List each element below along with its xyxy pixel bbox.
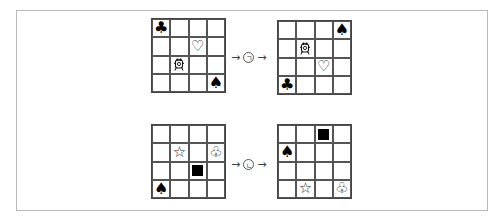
grid-cell — [170, 19, 188, 37]
heart-outline-icon: ♡ — [317, 59, 330, 74]
grid-cell — [189, 19, 207, 37]
grid-cell: ♡ — [315, 58, 333, 76]
grid-cell — [170, 162, 188, 180]
grid-before-2: ☆♧♠ — [151, 124, 226, 199]
grid-cell — [170, 56, 188, 74]
grid-cell: ♠ — [278, 143, 296, 161]
grid-cell — [152, 56, 170, 74]
grid-cell: ♣ — [278, 76, 296, 94]
grid-cell — [296, 21, 314, 39]
arrow-right-icon: → — [257, 158, 266, 171]
club-outline-icon: ♧ — [335, 181, 348, 196]
grid-cell — [296, 76, 314, 94]
grid-cell — [189, 56, 207, 74]
figure-icon — [299, 42, 311, 55]
arrow-right-icon: → — [231, 158, 240, 171]
grid-cell — [152, 143, 170, 161]
spade-filled-icon: ♠ — [154, 181, 168, 197]
transform-label-b: ㄴ — [243, 159, 254, 170]
grid-cell: ♠ — [207, 74, 225, 92]
arrow-right-icon: → — [257, 51, 266, 64]
grid-cell — [207, 125, 225, 143]
grid-cell — [278, 58, 296, 76]
grid-cell — [207, 56, 225, 74]
grid-cell — [278, 180, 296, 198]
grid-cell — [170, 125, 188, 143]
grid-cell — [333, 162, 351, 180]
square-filled-icon — [318, 129, 329, 140]
club-filled-icon: ♣ — [280, 77, 294, 93]
arrow-right-icon: → — [231, 51, 240, 64]
grid-after-1: ♠♡♣ — [277, 20, 352, 95]
grid-cell — [170, 37, 188, 55]
grid-cell — [278, 162, 296, 180]
grid-cell — [333, 143, 351, 161]
grid-cell — [152, 74, 170, 92]
grid-cell — [278, 39, 296, 57]
grid-cell — [315, 39, 333, 57]
grid-cell — [296, 162, 314, 180]
grid-cell — [278, 125, 296, 143]
grid-cell: ☆ — [170, 143, 188, 161]
grid-cell: ♣ — [152, 19, 170, 37]
grid-cell — [333, 58, 351, 76]
grid-cell — [170, 180, 188, 198]
star-outline-icon: ☆ — [173, 145, 186, 160]
grid-cell — [315, 21, 333, 39]
grid-cell: ♠ — [333, 21, 351, 39]
grid-cell — [189, 162, 207, 180]
grid-cell — [189, 125, 207, 143]
grid-cell — [296, 58, 314, 76]
heart-outline-icon: ♡ — [191, 39, 204, 54]
grid-cell: ♧ — [207, 143, 225, 161]
transform-b: → ㄴ → — [231, 158, 266, 171]
club-filled-icon: ♣ — [154, 20, 168, 36]
grid-cell — [333, 76, 351, 94]
grid-cell — [207, 162, 225, 180]
square-filled-icon — [192, 165, 203, 176]
grid-cell — [189, 180, 207, 198]
spade-filled-icon: ♠ — [209, 75, 223, 91]
grid-cell — [296, 143, 314, 161]
grid-cell — [152, 37, 170, 55]
grid-cell — [189, 74, 207, 92]
grid-cell — [207, 180, 225, 198]
grid-cell — [170, 74, 188, 92]
spade-filled-icon: ♠ — [280, 144, 294, 160]
grid-before-1: ♣♡♠ — [151, 18, 226, 93]
figure-icon — [173, 58, 185, 71]
grid-cell — [315, 180, 333, 198]
grid-cell — [207, 37, 225, 55]
diagram-frame — [16, 10, 488, 211]
transform-a: → ㄱ → — [231, 51, 266, 64]
grid-cell — [278, 21, 296, 39]
grid-cell — [189, 143, 207, 161]
grid-cell — [296, 39, 314, 57]
club-outline-icon: ♧ — [209, 145, 222, 160]
grid-cell — [333, 125, 351, 143]
grid-cell: ♠ — [152, 180, 170, 198]
grid-cell — [315, 125, 333, 143]
transform-label-a: ㄱ — [243, 52, 254, 63]
grid-cell — [152, 162, 170, 180]
grid-cell — [207, 19, 225, 37]
grid-cell — [152, 125, 170, 143]
grid-cell — [315, 76, 333, 94]
grid-cell: ☆ — [296, 180, 314, 198]
grid-cell — [315, 162, 333, 180]
grid-after-2: ♠☆♧ — [277, 124, 352, 199]
grid-cell — [296, 125, 314, 143]
grid-cell — [333, 39, 351, 57]
spade-filled-icon: ♠ — [335, 22, 349, 38]
star-outline-icon: ☆ — [299, 181, 312, 196]
grid-cell: ♡ — [189, 37, 207, 55]
grid-cell: ♧ — [333, 180, 351, 198]
grid-cell — [315, 143, 333, 161]
